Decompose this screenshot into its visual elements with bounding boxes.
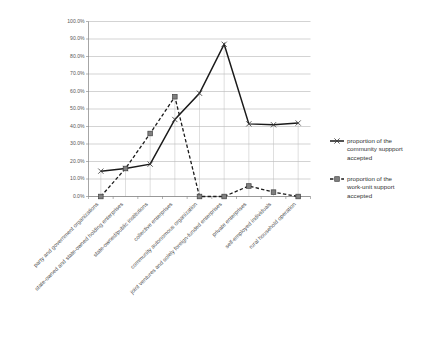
data-point-marker-square	[296, 194, 301, 199]
data-point-marker-square	[197, 194, 202, 199]
y-tick-label: 0.0%	[73, 193, 85, 199]
x-tick-label: joint ventures and solely foreign-funded…	[128, 201, 223, 296]
chart-legend: proportion of thecommunity suppportaccep…	[330, 137, 403, 200]
droplines-group	[101, 44, 298, 196]
legend-item-0[interactable]: proportion of thecommunity suppportaccep…	[330, 137, 403, 162]
x-tick-label: state-owned and state-owned holding ente…	[34, 201, 125, 292]
data-point-marker-square	[99, 194, 104, 199]
x-tick-label: rural household operation	[248, 201, 297, 250]
legend-label-line: proportion of the	[347, 175, 393, 182]
x-axis-tick-labels: party and government organizationsstate-…	[32, 201, 297, 296]
data-point-marker-square	[123, 166, 128, 171]
data-point-marker-square	[271, 190, 276, 195]
data-point-marker-square	[247, 184, 252, 189]
y-tick-label: 90.0%	[70, 35, 85, 41]
line-chart: 0.0%10.0%20.0%30.0%40.0%50.0%60.0%70.0%8…	[0, 0, 441, 348]
y-tick-label: 40.0%	[70, 123, 85, 129]
legend-item-1[interactable]: proportion of thework-unit supportaccept…	[330, 175, 395, 200]
chart-container: 0.0%10.0%20.0%30.0%40.0%50.0%60.0%70.0%8…	[0, 0, 441, 348]
legend-label-line: community suppport	[347, 145, 403, 152]
y-axis-tick-labels: 0.0%10.0%20.0%30.0%40.0%50.0%60.0%70.0%8…	[67, 18, 88, 199]
data-point-marker-square	[173, 94, 178, 99]
legend-label-line: accepted	[347, 192, 373, 199]
legend-label-line: accepted	[347, 154, 373, 161]
x-tick-label: self-employed individuals	[224, 201, 273, 250]
y-tick-label: 70.0%	[70, 70, 85, 76]
y-tick-label: 60.0%	[70, 88, 85, 94]
y-tick-label: 100.0%	[67, 18, 85, 24]
y-tick-label: 20.0%	[70, 158, 85, 164]
data-point-marker-square	[222, 194, 227, 199]
legend-label-line: work-unit support	[346, 183, 395, 190]
y-tick-label: 10.0%	[70, 175, 85, 181]
legend-label-line: proportion of the	[347, 137, 393, 144]
y-tick-label: 30.0%	[70, 140, 85, 146]
data-point-marker-square	[148, 131, 153, 136]
y-tick-label: 50.0%	[70, 105, 85, 111]
y-tick-label: 80.0%	[70, 53, 85, 59]
